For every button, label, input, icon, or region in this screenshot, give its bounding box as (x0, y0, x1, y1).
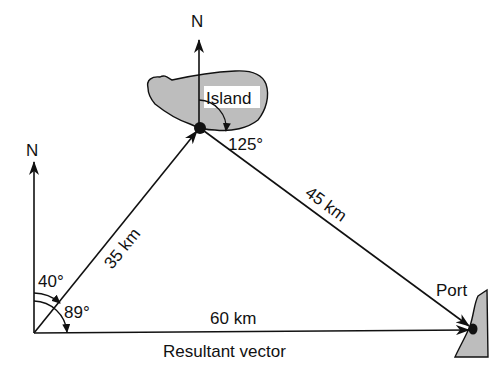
port-label: Port (436, 281, 467, 300)
angle-89-label: 89° (64, 303, 90, 322)
resultant-distance-label: 60 km (210, 309, 256, 328)
island-point (194, 122, 206, 134)
angle-40-label: 40° (38, 272, 64, 291)
port-point (469, 324, 478, 335)
north-label-top: N (191, 12, 203, 31)
vector-35km-label: 35 km (100, 225, 144, 273)
vector-45km-label: 45 km (302, 183, 351, 226)
island-label: Island (206, 89, 251, 108)
vector-diagram: Island Port N N 35 km 45 km 60 km Result… (0, 0, 497, 381)
vector-35km (34, 131, 197, 333)
vector-45km (200, 128, 469, 326)
resultant-caption: Resultant vector (163, 342, 286, 361)
resultant-vector (34, 330, 469, 333)
port-landmass (455, 290, 488, 357)
angle-125-label: 125° (228, 135, 263, 154)
north-label-left: N (26, 141, 38, 160)
